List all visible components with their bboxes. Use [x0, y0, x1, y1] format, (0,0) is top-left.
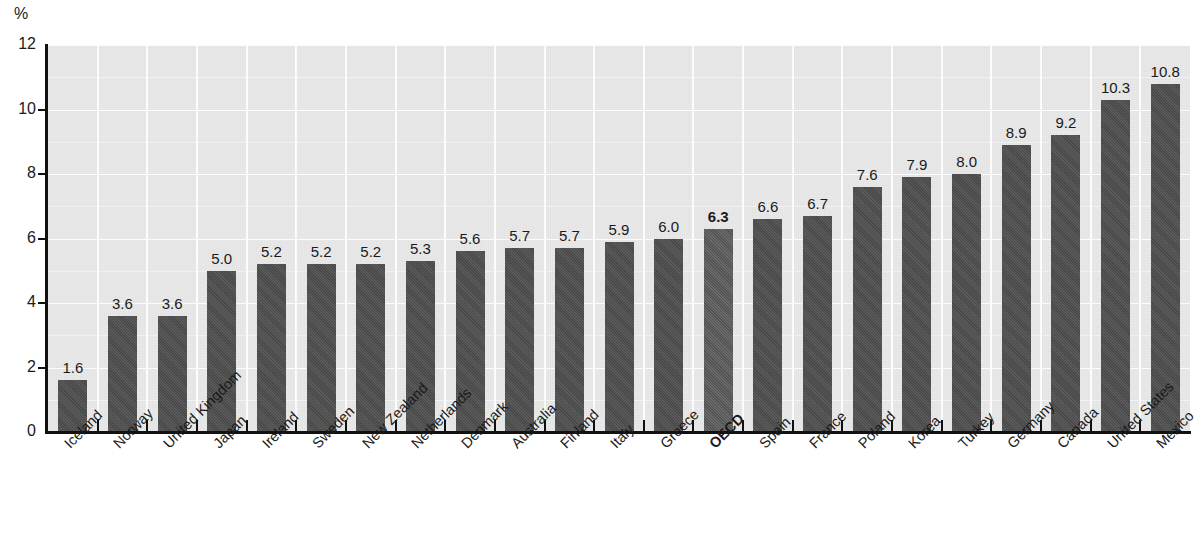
bar — [753, 219, 782, 432]
y-axis-tick-label: 0 — [6, 422, 36, 440]
bar-value-label: 9.2 — [1041, 114, 1091, 131]
bar-value-label: 5.9 — [594, 221, 644, 238]
bar-value-label: 10.3 — [1091, 79, 1141, 96]
plot-area — [48, 45, 1190, 432]
bar — [257, 264, 286, 432]
bar-value-label: 8.0 — [942, 153, 992, 170]
gridline-vertical — [146, 45, 148, 432]
bar-value-label: 6.3 — [693, 208, 743, 225]
bar — [803, 216, 832, 432]
bar-value-label: 10.8 — [1140, 63, 1190, 80]
bar — [605, 242, 634, 432]
y-axis-tick — [38, 173, 46, 175]
gridline-vertical — [295, 45, 297, 432]
gridline-vertical — [1040, 45, 1042, 432]
gridline-vertical — [742, 45, 744, 432]
bar-value-label: 6.0 — [644, 218, 694, 235]
y-axis-tick-label: 8 — [6, 164, 36, 182]
bar-value-label: 5.2 — [247, 243, 297, 260]
bar-value-label: 8.9 — [991, 124, 1041, 141]
bar — [356, 264, 385, 432]
gridline-major — [48, 45, 1190, 46]
bar — [1051, 135, 1080, 432]
y-axis-tick-label: 10 — [6, 100, 36, 118]
gridline-vertical — [990, 45, 992, 432]
bar-value-label: 5.3 — [396, 240, 446, 257]
y-axis-tick-label: 2 — [6, 358, 36, 376]
bar — [158, 316, 187, 432]
gridline-vertical — [643, 45, 645, 432]
bar — [952, 174, 981, 432]
bar-value-label: 1.6 — [48, 359, 98, 376]
gridline-vertical — [891, 45, 893, 432]
bar-value-label: 6.6 — [743, 198, 793, 215]
bar — [108, 316, 137, 432]
x-axis-tick — [643, 420, 645, 431]
gridline-minor — [48, 142, 1190, 143]
bar — [1002, 145, 1031, 432]
bar-value-label: 3.6 — [147, 295, 197, 312]
gridline-vertical — [692, 45, 694, 432]
y-axis-tick — [38, 302, 46, 304]
gridline-vertical — [841, 45, 843, 432]
bar — [654, 239, 683, 433]
bar-chart: % 121086420 1.63.63.65.05.25.25.25.35.65… — [0, 0, 1200, 549]
gridline-vertical — [395, 45, 397, 432]
bar-value-label: 7.6 — [842, 166, 892, 183]
bar-value-label: 5.7 — [495, 227, 545, 244]
gridline-vertical — [941, 45, 943, 432]
gridline-vertical — [345, 45, 347, 432]
y-axis-tick-label: 4 — [6, 293, 36, 311]
bar-value-label: 3.6 — [98, 295, 148, 312]
bar-value-label: 5.0 — [197, 250, 247, 267]
bar-value-label: 5.2 — [296, 243, 346, 260]
bar — [307, 264, 336, 432]
gridline-vertical — [792, 45, 794, 432]
bar-value-label: 5.7 — [545, 227, 595, 244]
gridline-vertical — [1090, 45, 1092, 432]
bar — [555, 248, 584, 432]
bar — [704, 229, 733, 432]
y-axis-tick-label: 12 — [6, 35, 36, 53]
bar — [902, 177, 931, 432]
bar — [853, 187, 882, 432]
gridline-minor — [48, 77, 1190, 78]
y-axis-tick-label: 6 — [6, 229, 36, 247]
bar-value-label: 5.6 — [445, 230, 495, 247]
y-axis-tick — [38, 367, 46, 369]
bar-value-label: 7.9 — [892, 156, 942, 173]
gridline-vertical — [1139, 45, 1141, 432]
bar-value-label: 6.7 — [793, 195, 843, 212]
y-axis-tick — [38, 109, 46, 111]
gridline-vertical — [246, 45, 248, 432]
y-axis-unit-label: % — [14, 5, 28, 23]
bar — [1101, 100, 1130, 432]
gridline-vertical — [196, 45, 198, 432]
gridline-major — [48, 110, 1190, 111]
bar — [505, 248, 534, 432]
bar-value-label: 5.2 — [346, 243, 396, 260]
y-axis-tick — [38, 238, 46, 240]
